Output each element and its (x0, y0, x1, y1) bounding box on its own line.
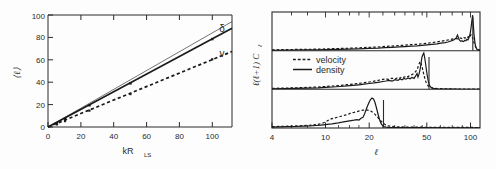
series-reference-line (48, 22, 232, 127)
figure-svg: 0 20 40 60 80 100 (0, 0, 496, 169)
left-x-ticks (48, 122, 212, 127)
right-y-axis-title-main: ℓ(ℓ+1) C (251, 53, 261, 86)
left-y-ticks (48, 15, 53, 127)
legend-label-velocity: velocity (316, 55, 347, 65)
left-x-ticks-top (81, 15, 212, 20)
right-y-axis-title-sub: ℓ (257, 44, 263, 47)
x-tick-80: 80 (175, 132, 184, 141)
right-x-tick-4: 4 (270, 133, 275, 142)
subpanel-top-density-curve (272, 15, 480, 50)
y-tick-60: 60 (36, 56, 45, 65)
left-y-axis-title: ⟨ℓ⟩ (12, 67, 22, 79)
subpanel-middle-density-curve (272, 53, 480, 89)
right-x-tick-100: 100 (464, 133, 478, 142)
right-panel: 4 10 20 50 100 ℓ ℓ(ℓ+1) C ℓ (251, 12, 480, 157)
subpanel-bottom-velocity-curve (272, 110, 480, 128)
figure-container: 0 20 40 60 80 100 (0, 0, 496, 169)
left-y-tick-labels: 0 20 40 60 80 100 (32, 12, 46, 133)
right-y-axis-title: ℓ(ℓ+1) C ℓ (251, 44, 263, 86)
legend-label-density: density (316, 65, 345, 75)
right-x-axis-title: ℓ (374, 147, 378, 157)
subpanel-middle (272, 53, 480, 89)
x-tick-60: 60 (142, 132, 151, 141)
subpanel-bottom (272, 98, 480, 128)
x-tick-20: 20 (76, 132, 85, 141)
right-x-tick-labels: 4 10 20 50 100 (270, 133, 478, 142)
y-tick-80: 80 (36, 33, 45, 42)
y-tick-100: 100 (32, 12, 46, 21)
left-panel: 0 20 40 60 80 100 (12, 12, 232, 159)
curve-label-delta: δ (219, 23, 225, 34)
right-panel-legend: velocity density (293, 55, 347, 75)
left-panel-frame (48, 15, 232, 127)
y-tick-40: 40 (36, 78, 45, 87)
subpanel-bottom-density-curve (272, 98, 480, 128)
series-velocity-line (48, 52, 232, 128)
x-tick-40: 40 (109, 132, 118, 141)
x-tick-0: 0 (46, 132, 51, 141)
right-x-tick-50: 50 (422, 133, 431, 142)
right-x-tick-20: 20 (365, 133, 374, 142)
y-tick-0: 0 (41, 123, 46, 132)
left-x-axis-title: kR LS (123, 146, 152, 158)
x-axis-title-sub: LS (144, 152, 151, 158)
subpanel-top (272, 15, 480, 50)
curve-label-velocity: v (220, 48, 225, 59)
left-x-tick-labels: 0 20 40 60 80 100 (46, 132, 220, 141)
y-tick-20: 20 (36, 101, 45, 110)
x-tick-100: 100 (206, 132, 220, 141)
right-x-ticks-top (292, 12, 471, 18)
series-delta-line (48, 28, 232, 127)
subpanel-middle-velocity-curve (272, 62, 480, 90)
x-axis-title-main: kR (123, 146, 135, 156)
right-x-tick-10: 10 (321, 133, 330, 142)
